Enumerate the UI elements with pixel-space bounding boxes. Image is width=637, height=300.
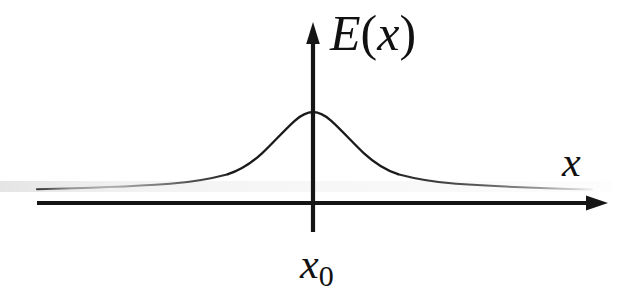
y-axis-label-function: E [330,5,361,61]
x-zero-subscript: 0 [319,259,334,292]
figure-container: E(x) x x0 [0,0,637,300]
x-axis-label: x [562,141,581,183]
x-zero-tick-label: x0 [300,243,334,291]
y-axis-label: E(x) [330,8,416,58]
y-axis-arrowhead [306,22,320,44]
y-axis-label-close-paren: ) [399,5,416,61]
y-axis [306,22,320,232]
y-axis-label-open-paren: ( [361,5,378,61]
x-axis-arrowhead [586,195,608,210]
x-zero-base: x [300,241,319,287]
x-axis [37,195,608,210]
y-axis-label-argument: x [377,5,399,61]
